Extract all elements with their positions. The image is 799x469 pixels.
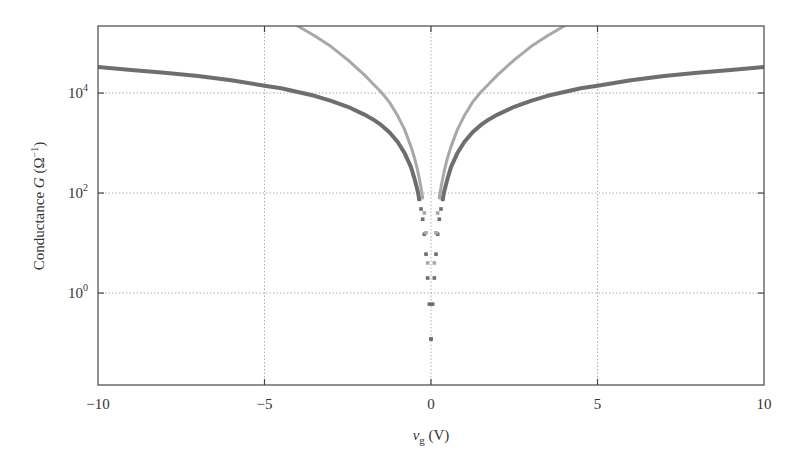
- light-series-point: [436, 211, 440, 215]
- y-tick-label: 102: [68, 182, 88, 201]
- y-tick-label: 100: [68, 282, 88, 301]
- y-axis-label: Conductance G (Ω−1): [29, 142, 48, 270]
- x-tick-labels: −10−50510: [86, 396, 771, 412]
- dark-series-point: [433, 276, 437, 280]
- y-axis-unit-close: ): [31, 142, 48, 147]
- x-tick-label: 5: [594, 396, 602, 412]
- x-axis-unit: (V): [425, 427, 450, 444]
- y-tick-labels: 100102104: [68, 82, 88, 301]
- dark-series-point: [428, 302, 432, 306]
- dark-series-point: [431, 302, 435, 306]
- data-series: [98, 26, 764, 341]
- dark-series-point: [426, 276, 430, 280]
- grid-lines: [98, 26, 764, 385]
- y-axis-variable: G: [31, 177, 47, 188]
- dark-series-point: [421, 217, 425, 221]
- y-axis-unit: (Ω: [31, 157, 48, 177]
- x-tick-label: 10: [757, 396, 772, 412]
- light-series-point: [434, 231, 438, 235]
- x-tick-label: 0: [427, 396, 435, 412]
- light-series-point: [424, 231, 428, 235]
- dark-series-point: [419, 207, 423, 211]
- x-tick-label: −10: [86, 396, 109, 412]
- dark-series-point: [439, 207, 443, 211]
- light-series-point: [433, 261, 437, 265]
- dark-series-point: [434, 252, 438, 256]
- x-tick-label: −5: [257, 396, 273, 412]
- conductance-chart: −10−50510 100102104 vg (V) Conductance G…: [0, 0, 799, 469]
- y-axis-unit-exponent: −1: [29, 147, 40, 158]
- dark-series-point: [441, 197, 445, 201]
- light-series-point: [426, 261, 430, 265]
- x-axis-label: vg (V): [413, 427, 450, 446]
- y-tick-label: 104: [68, 82, 88, 101]
- y-axis-title: Conductance: [31, 188, 47, 270]
- dark-series-point: [418, 197, 422, 201]
- dark-series-line: [98, 67, 419, 199]
- light-series-point: [423, 211, 427, 215]
- dark-series-point: [438, 217, 442, 221]
- dark-series-line: [443, 67, 764, 199]
- dark-series-point: [429, 337, 433, 341]
- dark-series-point: [424, 252, 428, 256]
